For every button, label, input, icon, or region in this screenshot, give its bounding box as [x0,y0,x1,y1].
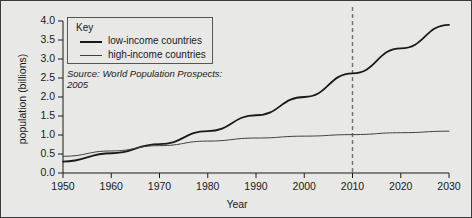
legend: Key low-income countries high-income cou… [67,17,213,64]
legend-label-high-income: high-income countries [108,49,206,60]
legend-title: Key [76,22,93,33]
population-projection-chart: population (billions) Year 0.00.51.01.52… [0,0,472,218]
x-tick-label: 2030 [429,180,469,192]
y-tick-label: 1.5 [29,109,55,121]
legend-line-icon-high-income [80,55,102,56]
y-tick-label: 2.0 [29,90,55,102]
x-tick-label: 1960 [91,180,131,192]
legend-label-low-income: low-income countries [108,35,202,46]
y-tick-label: 3.0 [29,52,55,64]
x-axis-title: Year [1,198,472,210]
x-tick-label: 2010 [333,180,373,192]
x-tick-label: 2020 [381,180,421,192]
legend-item-low-income: low-income countries [76,35,214,49]
y-tick-label: 4.0 [29,14,55,26]
x-tick-label: 1970 [140,180,180,192]
x-tick-label: 1950 [43,180,83,192]
y-tick-label: 1.0 [29,128,55,140]
x-tick-label: 1990 [236,180,276,192]
y-tick-label: 3.5 [29,33,55,45]
y-axis-title: population (billions) [16,34,28,164]
legend-item-high-income: high-income countries [76,49,214,63]
y-tick-label: 0.0 [29,166,55,178]
y-tick-label: 0.5 [29,147,55,159]
source-note: Source: World Population Prospects: 2005 [67,68,227,90]
y-tick-label: 2.5 [29,71,55,83]
legend-line-icon-low-income [80,41,102,43]
x-tick-label: 1980 [188,180,228,192]
x-tick-label: 2000 [284,180,324,192]
